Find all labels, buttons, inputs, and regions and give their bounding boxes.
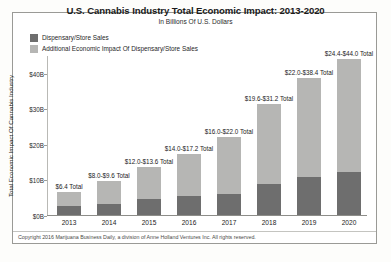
bar-group[interactable]: $8.0-$9.6 Total2014: [97, 181, 122, 215]
y-axis-tick-mark: [44, 216, 47, 217]
x-axis-tick-label: 2017: [222, 219, 237, 226]
y-axis-tick-label: $0B: [33, 213, 44, 220]
y-axis-tick-label: $40B: [29, 70, 44, 77]
bar-segment-dispensary-sales[interactable]: [257, 184, 282, 215]
bar-value-label: $19.6-$31.2 Total: [245, 95, 294, 102]
copyright-notice: Copyright 2016 Marijuana Business Daily,…: [18, 234, 256, 240]
legend-swatch-icon: [30, 34, 38, 42]
y-axis-label-text: Total Economic Impact Of Cannabis Indust…: [7, 56, 14, 216]
bar-segment-additional-impact[interactable]: [217, 137, 242, 194]
x-axis-tick-label: 2014: [102, 219, 117, 226]
x-axis-tick-label: 2016: [182, 219, 197, 226]
chart-legend: Dispensary/Store SalesAdditional Economi…: [30, 32, 198, 54]
y-axis-line: [47, 56, 48, 216]
bar-group[interactable]: $16.0-$22.0 Total2017: [217, 137, 242, 215]
bar-segment-dispensary-sales[interactable]: [337, 172, 362, 215]
bar-segment-additional-impact[interactable]: [137, 167, 162, 200]
x-axis-tick-label: 2018: [262, 219, 277, 226]
plot-area: $0B$10B$20B$30B$40B $6.4 Total2013$8.0-$…: [47, 56, 367, 216]
footer-divider: [13, 231, 376, 232]
bar-group[interactable]: $14.0-$17.2 Total2016: [177, 154, 202, 215]
chart-title: U.S. Cannabis Industry Total Economic Im…: [0, 5, 391, 16]
bar-segment-dispensary-sales[interactable]: [137, 199, 162, 215]
chart-subtitle: In Billions Of U.S. Dollars: [0, 18, 391, 25]
bar-segment-additional-impact[interactable]: [297, 78, 322, 177]
bar-value-label: $16.0-$22.0 Total: [205, 128, 254, 135]
y-axis-tick-label: $30B: [29, 106, 44, 113]
legend-item-label: Dispensary/Store Sales: [42, 34, 109, 41]
bar-value-label: $6.4 Total: [55, 183, 82, 190]
y-axis-label: Total Economic Impact Of Cannabis Indust…: [7, 0, 17, 56]
bar-value-label: $14.0-$17.2 Total: [165, 145, 214, 152]
bar-segment-dispensary-sales[interactable]: [217, 194, 242, 215]
bar-group[interactable]: $19.6-$31.2 Total2018: [257, 104, 282, 215]
bar-value-label: $24.4-$44.0 Total: [325, 50, 374, 57]
y-axis-tick-mark: [44, 145, 47, 146]
bar-segment-additional-impact[interactable]: [57, 192, 82, 206]
x-axis-tick-label: 2019: [302, 219, 317, 226]
legend-item-label: Additional Economic Impact Of Dispensary…: [42, 45, 198, 52]
y-axis-tick-label: $10B: [29, 177, 44, 184]
bar-group[interactable]: $24.4-$44.0 Total2020: [337, 59, 362, 215]
x-axis-line: [47, 215, 367, 216]
legend-item[interactable]: Additional Economic Impact Of Dispensary…: [30, 43, 198, 54]
bar-group[interactable]: $12.0-$13.6 Total2015: [137, 167, 162, 215]
bar-group[interactable]: $22.0-$38.4 Total2019: [297, 78, 322, 215]
bar-segment-additional-impact[interactable]: [337, 59, 362, 172]
bar-group[interactable]: $6.4 Total2013: [57, 192, 82, 215]
bar-segment-additional-impact[interactable]: [177, 154, 202, 196]
y-axis-tick-mark: [44, 109, 47, 110]
bar-segment-dispensary-sales[interactable]: [177, 196, 202, 215]
bar-segment-additional-impact[interactable]: [257, 104, 282, 184]
bar-segment-dispensary-sales[interactable]: [297, 177, 322, 215]
bar-value-label: $8.0-$9.6 Total: [88, 172, 130, 179]
chart-page: U.S. Cannabis Industry Total Economic Im…: [0, 0, 391, 262]
legend-swatch-icon: [30, 45, 38, 53]
bar-value-label: $12.0-$13.6 Total: [125, 158, 174, 165]
x-axis-tick-label: 2020: [342, 219, 357, 226]
bar-value-label: $22.0-$38.4 Total: [285, 69, 334, 76]
x-axis-tick-label: 2015: [142, 219, 157, 226]
bar-segment-dispensary-sales[interactable]: [97, 204, 122, 215]
x-axis-tick-label: 2013: [62, 219, 77, 226]
bar-segment-additional-impact[interactable]: [97, 181, 122, 204]
legend-item[interactable]: Dispensary/Store Sales: [30, 32, 198, 43]
y-axis-tick-mark: [44, 180, 47, 181]
bar-segment-dispensary-sales[interactable]: [57, 206, 82, 215]
y-axis-tick-mark: [44, 74, 47, 75]
y-axis-tick-label: $20B: [29, 141, 44, 148]
